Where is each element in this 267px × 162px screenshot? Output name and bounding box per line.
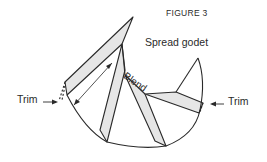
right-spread-strip <box>145 92 203 113</box>
right-panel-edge <box>176 58 198 92</box>
trim-left-dashes <box>59 82 65 101</box>
trim-left-label: Trim <box>17 93 38 105</box>
figure-title: FIGURE 3 <box>166 8 208 18</box>
figure-caption: Spread godet <box>145 36 208 48</box>
trim-right-label: Trim <box>228 95 249 107</box>
